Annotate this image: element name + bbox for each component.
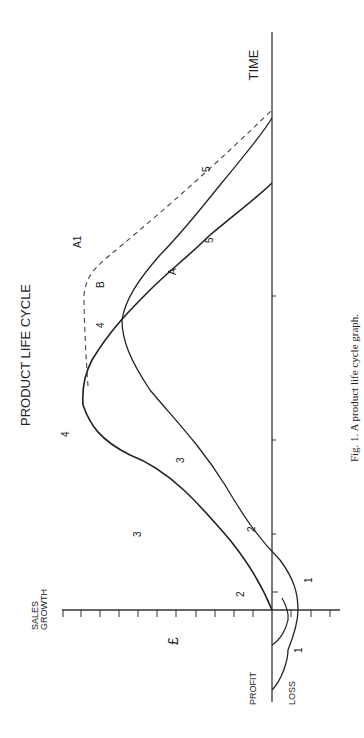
loss-curve-segment	[272, 598, 288, 645]
loss-label: LOSS	[287, 681, 297, 705]
time-axis-label: TIME	[246, 49, 261, 80]
extension-curve-a1	[84, 110, 272, 386]
figure-caption: Fig. 1. A product life cycle graph.	[348, 314, 360, 462]
sales-curve	[83, 183, 272, 610]
stage-4-profit: 4	[95, 322, 106, 328]
stage-1-profit: 1	[293, 647, 304, 653]
stage-4-sales: 4	[60, 431, 71, 437]
profit-label: PROFIT	[248, 671, 258, 705]
stage-3-profit: 3	[175, 457, 186, 463]
curve-label-a: A	[167, 268, 178, 275]
stage-3-sales: 3	[132, 531, 143, 537]
stage-2-sales: 2	[235, 591, 246, 597]
curve-label-a1: A1	[72, 235, 83, 248]
growth-label: GROWTH	[39, 589, 49, 630]
product-life-cycle-chart: TIME PRODUCT LIFE CYCLE SALES GROWTH £ P…	[0, 0, 364, 738]
stage-2-profit: 2	[246, 526, 257, 532]
stage-5-profit: 5	[201, 166, 212, 172]
curve-label-b: B	[95, 281, 106, 288]
stage-1-sales: 1	[303, 577, 314, 583]
pound-label: £	[165, 637, 181, 645]
stage-5-sales: 5	[204, 237, 215, 243]
chart-title: PRODUCT LIFE CYCLE	[18, 284, 33, 426]
